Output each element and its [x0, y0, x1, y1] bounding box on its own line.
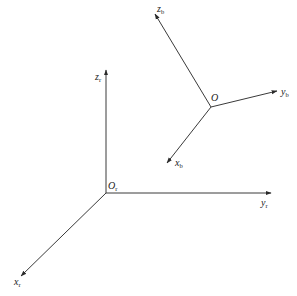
reference-x-axis — [21, 193, 106, 276]
body-origin-label: O — [211, 92, 218, 103]
reference-z-label: zr — [94, 71, 102, 83]
body-y-axis — [211, 91, 277, 107]
body-z-label: zb — [156, 3, 164, 15]
body-y-label: yb — [280, 86, 289, 98]
reference-y-label: yr — [260, 197, 268, 209]
reference-origin-label: Or — [108, 180, 118, 192]
coordinate-frames-diagram: zr yr xr Or zb yb xb O — [0, 0, 297, 296]
body-z-axis — [155, 14, 211, 107]
body-x-label: xb — [174, 157, 183, 169]
reference-frame: zr yr xr Or — [13, 70, 271, 288]
body-x-axis — [167, 107, 211, 163]
body-frame: zb yb xb O — [155, 3, 289, 169]
reference-x-label: xr — [13, 276, 21, 288]
